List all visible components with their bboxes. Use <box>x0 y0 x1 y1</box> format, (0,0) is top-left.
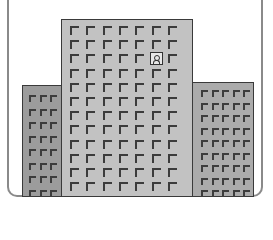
window <box>201 178 208 185</box>
window <box>201 153 208 160</box>
window <box>212 128 219 135</box>
window <box>135 26 144 35</box>
window <box>29 95 36 102</box>
window <box>243 153 250 160</box>
window <box>152 154 161 163</box>
window <box>152 125 161 134</box>
window <box>50 136 57 143</box>
window <box>103 125 112 134</box>
window <box>135 140 144 149</box>
window <box>222 165 229 172</box>
window <box>40 190 47 197</box>
window <box>222 128 229 135</box>
window <box>119 83 128 92</box>
window <box>168 111 177 120</box>
window <box>70 40 79 49</box>
window <box>212 153 219 160</box>
window <box>103 54 112 63</box>
window <box>168 97 177 106</box>
window <box>233 90 240 97</box>
window <box>86 69 95 78</box>
window <box>152 111 161 120</box>
window <box>233 140 240 147</box>
window <box>119 154 128 163</box>
window <box>212 165 219 172</box>
window <box>86 97 95 106</box>
window <box>70 125 79 134</box>
window <box>119 125 128 134</box>
window <box>168 154 177 163</box>
window <box>135 111 144 120</box>
window <box>243 128 250 135</box>
window <box>152 40 161 49</box>
window <box>168 69 177 78</box>
window <box>152 26 161 35</box>
window <box>50 149 57 156</box>
window <box>152 83 161 92</box>
window <box>103 182 112 191</box>
window <box>119 54 128 63</box>
window <box>152 168 161 177</box>
window <box>70 154 79 163</box>
window <box>29 163 36 170</box>
window <box>86 182 95 191</box>
window <box>86 83 95 92</box>
window <box>212 140 219 147</box>
window <box>70 54 79 63</box>
person-body <box>153 60 160 65</box>
person-window-icon <box>150 52 163 65</box>
right-building <box>192 82 254 197</box>
window <box>168 140 177 149</box>
window <box>243 103 250 110</box>
left-building <box>22 85 63 197</box>
window <box>86 168 95 177</box>
window <box>103 168 112 177</box>
window <box>40 109 47 116</box>
window <box>222 178 229 185</box>
window <box>135 125 144 134</box>
window <box>152 69 161 78</box>
window <box>70 168 79 177</box>
window <box>212 90 219 97</box>
window <box>135 69 144 78</box>
window <box>168 125 177 134</box>
window <box>152 182 161 191</box>
window <box>201 115 208 122</box>
window <box>29 109 36 116</box>
window <box>233 190 240 197</box>
window <box>86 40 95 49</box>
window <box>70 111 79 120</box>
window <box>70 97 79 106</box>
window <box>243 140 250 147</box>
window <box>168 40 177 49</box>
window <box>103 40 112 49</box>
window <box>70 140 79 149</box>
window <box>201 90 208 97</box>
window <box>168 54 177 63</box>
window <box>103 97 112 106</box>
window <box>212 190 219 197</box>
window <box>222 140 229 147</box>
window <box>201 165 208 172</box>
window <box>50 95 57 102</box>
window <box>119 140 128 149</box>
window <box>201 128 208 135</box>
window <box>40 149 47 156</box>
window <box>86 54 95 63</box>
window <box>50 109 57 116</box>
window <box>86 111 95 120</box>
window <box>86 154 95 163</box>
window <box>222 153 229 160</box>
window <box>103 26 112 35</box>
window <box>222 190 229 197</box>
window <box>50 163 57 170</box>
window <box>243 178 250 185</box>
window <box>70 83 79 92</box>
window <box>119 182 128 191</box>
window <box>233 128 240 135</box>
window <box>50 190 57 197</box>
window <box>119 69 128 78</box>
window <box>135 40 144 49</box>
window <box>103 69 112 78</box>
window <box>40 122 47 129</box>
